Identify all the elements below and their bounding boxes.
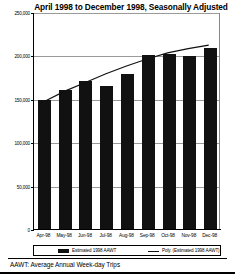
y-axis-tick-label: 100,000: [14, 141, 30, 146]
x-axis-tick-label: Dec-98: [199, 233, 220, 239]
legend-entry-estimated-aawt: Estimated 1998 AAWT: [58, 248, 116, 254]
y-axis-tick-label: 50,000: [17, 184, 30, 189]
polynomial-trendline: [44, 45, 208, 101]
x-axis-tick-label: Sep-98: [137, 233, 158, 239]
y-axis-tick-label: 250,000: [14, 11, 30, 16]
gridline: [34, 230, 219, 231]
legend-bar-label: Estimated 1998 AAWT: [72, 248, 116, 254]
y-axis-tick-label: 0: [28, 228, 30, 233]
chart-figure: April 1998 to December 1998, Seasonally …: [0, 0, 235, 275]
bottom-rule: [0, 272, 235, 274]
x-axis-tick-label: May-98: [54, 233, 75, 239]
x-axis-line: [33, 229, 221, 230]
legend-line-label: Poly. (Estimated 1998 AAWT): [162, 248, 220, 254]
x-axis-tick-label: Nov-98: [178, 233, 199, 239]
plot-area: 050,000100,000150,000200,000250,000: [33, 13, 220, 230]
y-axis-tick-label: 200,000: [14, 54, 30, 59]
x-axis-tick-label: Jun-98: [75, 233, 96, 239]
x-axis-tick-label: Apr-98: [33, 233, 54, 239]
legend-entry-poly-trend: Poly. (Estimated 1998 AAWT): [148, 248, 220, 254]
chart-legend: Estimated 1998 AAWT Poly. (Estimated 199…: [33, 245, 221, 256]
x-axis-tick-label: Jul-98: [95, 233, 116, 239]
trendline-group: [34, 13, 219, 230]
x-axis-labels: Apr-98May-98Jun-98Jul-98Aug-98Sep-98Oct-…: [33, 233, 221, 243]
y-axis-tick-mark: [31, 230, 34, 231]
x-axis-tick-label: Aug-98: [116, 233, 137, 239]
y-axis-tick-label: 150,000: [14, 97, 30, 102]
footnote-text: AAWT: Average Annual Week-day Trips: [10, 260, 120, 269]
legend-bar-swatch-icon: [58, 249, 69, 253]
x-axis-tick-label: Oct-98: [158, 233, 179, 239]
chart-title: April 1998 to December 1998, Seasonally …: [30, 2, 232, 12]
legend-line-swatch-icon: [148, 251, 159, 252]
